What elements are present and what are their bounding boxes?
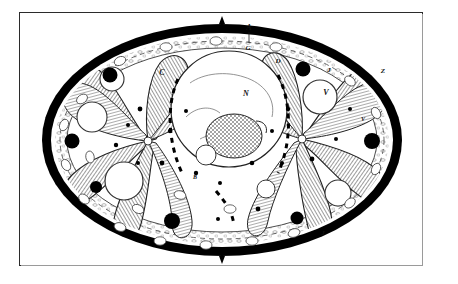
granule: [291, 212, 304, 225]
cross-section-figure: A G D C N V Z V J J B: [20, 13, 424, 267]
label-v-secondary: V: [361, 116, 366, 122]
label-v: V: [323, 88, 329, 97]
body-wall-texture: [53, 35, 391, 245]
vacuole: [257, 180, 275, 198]
muscle-band: [261, 53, 303, 139]
label-z: Z: [380, 67, 386, 75]
label-g: G: [245, 44, 250, 52]
vacuole: [77, 102, 107, 132]
vacuole: [196, 145, 216, 165]
vacuole: [100, 67, 124, 91]
stippled-corpuscle: [206, 114, 262, 158]
label-j-secondary: J: [320, 229, 325, 237]
illustration-plate: A G D C N V Z V J J B: [0, 0, 458, 284]
muscle-band: [235, 81, 302, 139]
peripheral-cell-ring: [58, 37, 383, 249]
label-j: J: [326, 66, 331, 74]
peripheral-granules: [65, 62, 381, 230]
label-d: D: [274, 57, 280, 65]
label-b: B: [192, 174, 197, 180]
granule: [103, 68, 118, 83]
muscle-band: [148, 79, 214, 141]
vacuole: [303, 80, 337, 114]
muscle-band: [63, 83, 148, 141]
granule: [296, 62, 311, 77]
granule: [65, 134, 80, 149]
label-n: N: [242, 89, 250, 98]
granule: [90, 181, 102, 193]
vacuole: [325, 180, 351, 206]
muscle-band: [67, 66, 148, 141]
muscle-band: [302, 139, 386, 202]
muscle-band: [247, 139, 302, 236]
muscle-band: [296, 139, 332, 240]
muscle-band: [302, 67, 386, 139]
label-a: A: [245, 23, 252, 32]
muscle-rosette-core: [298, 135, 306, 143]
radial-muscle-bands: [63, 53, 387, 240]
figure-labels: A G D C N V Z V J J B: [159, 23, 386, 237]
muscle-band: [147, 56, 189, 141]
muscle-band: [148, 141, 192, 238]
cross-section-drawing: A G D C N V Z V J J B: [20, 13, 424, 267]
muscle-band: [64, 141, 148, 204]
central-organ: [171, 51, 287, 167]
muscle-rosette-core: [144, 137, 152, 145]
vacuoles: [77, 67, 351, 206]
muscle-band: [302, 83, 387, 139]
granule: [364, 133, 380, 149]
cuticle-ring: [42, 16, 402, 264]
label-c: C: [159, 68, 165, 77]
granule: [164, 213, 180, 229]
vacuole: [105, 162, 143, 200]
muscle-band: [114, 141, 154, 238]
plate-frame: A G D C N V Z V J J B: [19, 12, 423, 266]
